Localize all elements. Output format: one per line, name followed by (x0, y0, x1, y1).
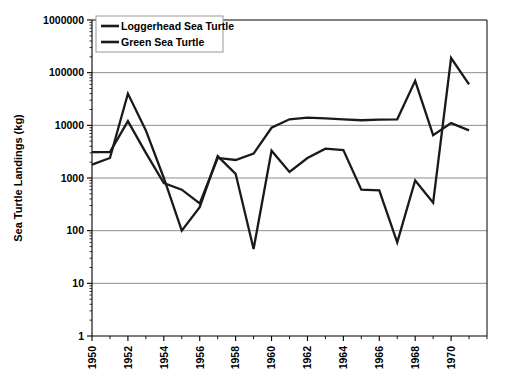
x-tick-label: 1964 (337, 346, 349, 370)
y-tick-label: 100 (66, 224, 84, 236)
y-tick-label: 10000 (55, 119, 84, 131)
legend-label-loggerhead: Loggerhead Sea Turtle (121, 20, 234, 32)
x-tick-label: 1962 (301, 346, 313, 370)
y-tick-label: 100000 (49, 66, 84, 78)
x-tick-label: 1956 (194, 346, 206, 370)
x-tick-label: 1950 (86, 346, 98, 370)
x-tick-label: 1960 (265, 346, 277, 370)
chart-container: 1101001000100001000001000000 19501952195… (0, 0, 512, 381)
y-tick-label: 10 (72, 277, 84, 289)
x-tick-label: 1968 (409, 346, 421, 370)
y-axis-label: Sea Turtle Landings (kg) (12, 114, 24, 242)
x-tick-label: 1958 (229, 346, 241, 370)
y-tick-label: 1 (78, 330, 84, 342)
x-tick-label: 1970 (445, 346, 457, 370)
chart-legend: Loggerhead Sea Turtle Green Sea Turtle (96, 16, 234, 52)
legend-label-green: Green Sea Turtle (121, 36, 204, 48)
y-tick-label: 1000000 (43, 14, 84, 26)
x-tick-label: 1966 (373, 346, 385, 370)
sea-turtle-landings-chart: 1101001000100001000001000000 19501952195… (0, 0, 512, 381)
y-tick-label: 1000 (61, 172, 85, 184)
x-tick-label: 1954 (158, 346, 170, 370)
x-tick-label: 1952 (122, 346, 134, 370)
